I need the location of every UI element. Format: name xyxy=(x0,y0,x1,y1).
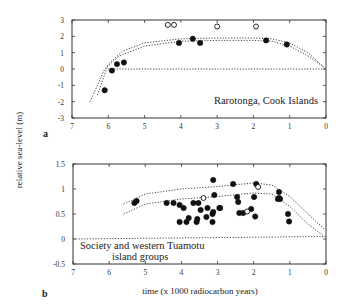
panel-a-label: a xyxy=(43,128,48,139)
x-tick-label: 0 xyxy=(324,268,328,277)
data-point-filled xyxy=(190,36,195,41)
y-tick-label: 1 xyxy=(61,185,65,194)
data-point-filled xyxy=(234,194,239,199)
data-point-filled xyxy=(205,205,210,210)
data-point-filled xyxy=(284,42,289,47)
data-point-filled xyxy=(251,194,256,199)
x-tick-label: 1 xyxy=(288,122,292,131)
x-tick-label: 6 xyxy=(106,122,110,131)
x-axis-title: time (x 1000 radiocarbon years) xyxy=(142,286,257,296)
data-point-filled xyxy=(109,68,114,73)
data-point-filled xyxy=(184,219,189,224)
y-tick-label: -2 xyxy=(58,98,64,107)
x-tick-label: 3 xyxy=(215,122,219,131)
data-point-filled xyxy=(286,219,291,224)
y-tick-label: -3 xyxy=(58,114,64,123)
data-point-filled xyxy=(102,88,107,93)
data-point-open xyxy=(256,185,261,190)
y-tick-label: 2 xyxy=(60,32,64,41)
data-point-filled xyxy=(176,40,181,45)
data-point-open xyxy=(215,24,220,29)
x-tick-label: 1 xyxy=(288,268,292,277)
panel-b-points xyxy=(132,177,292,224)
envelope-lower-line xyxy=(124,193,325,237)
data-point-filled xyxy=(171,200,176,205)
data-point-filled xyxy=(204,214,209,219)
figure: 765432103210-1-2-3 Rarotonga, Cook Islan… xyxy=(0,0,347,308)
data-point-filled xyxy=(285,211,290,216)
data-point-filled xyxy=(253,214,258,219)
x-tick-label: 5 xyxy=(143,268,147,277)
data-point-filled xyxy=(211,177,216,182)
y-tick-label: 0.5 xyxy=(56,210,66,219)
x-tick-label: 7 xyxy=(70,122,74,131)
data-point-open xyxy=(245,209,250,214)
data-point-filled xyxy=(121,60,126,65)
data-point-filled xyxy=(197,40,202,45)
panel-a-points xyxy=(102,22,289,93)
data-point-filled xyxy=(196,200,201,205)
x-tick-label: 5 xyxy=(143,122,147,131)
data-point-filled xyxy=(275,196,280,201)
data-point-filled xyxy=(191,200,196,205)
y-tick-label: 1.5 xyxy=(56,160,66,169)
data-point-open xyxy=(165,22,170,27)
data-point-filled xyxy=(217,205,222,210)
y-tick-label: 1 xyxy=(60,49,64,58)
data-point-filled xyxy=(236,199,241,204)
x-tick-label: 0 xyxy=(324,122,328,131)
y-tick-label: 3 xyxy=(60,16,64,25)
envelope-lower-line xyxy=(90,40,324,101)
x-tick-label: 3 xyxy=(216,268,220,277)
envelope-upper-line xyxy=(124,183,325,229)
data-point-filled xyxy=(114,61,119,66)
panel-a: 765432103210-1-2-3 Rarotonga, Cook Islan… xyxy=(43,16,328,139)
x-tick-label: 6 xyxy=(107,268,111,277)
panel-a-curves xyxy=(90,38,326,102)
data-point-filled xyxy=(212,192,217,197)
data-point-filled xyxy=(181,205,186,210)
data-point-filled xyxy=(134,198,139,203)
data-point-filled xyxy=(211,209,216,214)
data-point-filled xyxy=(195,216,200,221)
panel-a-ticks: 765432103210-1-2-3 xyxy=(58,16,328,131)
panel-b-label: b xyxy=(42,288,48,299)
data-point-filled xyxy=(177,219,182,224)
data-point-filled xyxy=(230,181,235,186)
x-tick-label: 7 xyxy=(71,268,75,277)
panel-b-annotation-line2: island groups xyxy=(112,251,168,262)
data-point-open xyxy=(172,22,177,27)
y-tick-label: -1 xyxy=(58,81,64,90)
y-tick-label: 0 xyxy=(60,65,64,74)
x-tick-label: 4 xyxy=(179,122,183,131)
x-tick-label: 2 xyxy=(252,122,256,131)
data-point-filled xyxy=(263,38,268,43)
panel-a-annotation: Rarotonga, Cook Islands xyxy=(214,95,318,106)
x-tick-label: 2 xyxy=(252,268,256,277)
x-tick-label: 4 xyxy=(180,268,184,277)
y-tick-label: -0.5 xyxy=(53,260,65,269)
zero-line-line xyxy=(73,237,326,240)
y-axis-title: relative sea-level (m) xyxy=(14,112,24,188)
y-tick-label: 0 xyxy=(61,235,65,244)
data-point-open xyxy=(201,196,206,201)
data-point-filled xyxy=(164,200,169,205)
panel-b: 765432101.510.50-0.5 Society and western… xyxy=(42,160,328,299)
envelope-upper-line xyxy=(97,38,324,95)
data-point-filled xyxy=(198,207,203,212)
data-point-filled xyxy=(276,189,281,194)
panel-b-annotation-line1: Society and western Tuamotu xyxy=(80,240,205,251)
data-point-filled xyxy=(210,219,215,224)
data-point-open xyxy=(254,24,259,29)
